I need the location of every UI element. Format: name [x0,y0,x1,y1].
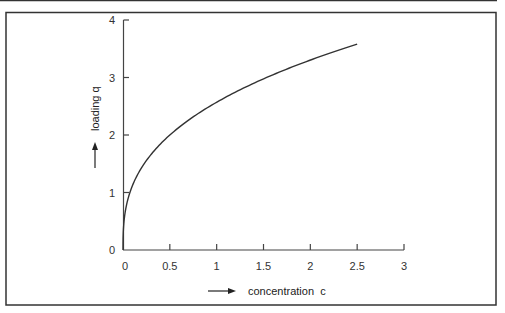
x-tick-label: 3 [401,260,407,272]
isotherm-curve [123,44,357,250]
y-tick-label: 2 [109,129,115,141]
x-arrow-head-icon [228,288,236,294]
y-axis-label: loading q [89,86,101,131]
y-ticks: 01234 [109,14,129,256]
axes [123,20,404,250]
y-arrow-head-icon [92,142,98,150]
chart-canvas: 00.511.522.53 01234 loading q concentrat… [0,0,505,313]
x-tick-label: 1.5 [256,260,271,272]
y-tick-label: 4 [109,14,115,26]
x-tick-label: 0.5 [162,260,177,272]
y-tick-label: 0 [109,244,115,256]
x-tick-label: 2 [307,260,313,272]
y-tick-label: 1 [109,187,115,199]
x-tick-label: 2.5 [350,260,365,272]
y-tick-label: 3 [109,72,115,84]
x-axis-label: concentration c [248,285,326,297]
x-axis-label-group: concentration c [208,285,326,297]
chart-frame [6,13,496,306]
x-tick-label: 0 [122,260,128,272]
x-tick-label: 1 [214,260,220,272]
y-axis-label-group: loading q [89,86,101,168]
x-ticks: 00.511.522.53 [122,244,407,272]
